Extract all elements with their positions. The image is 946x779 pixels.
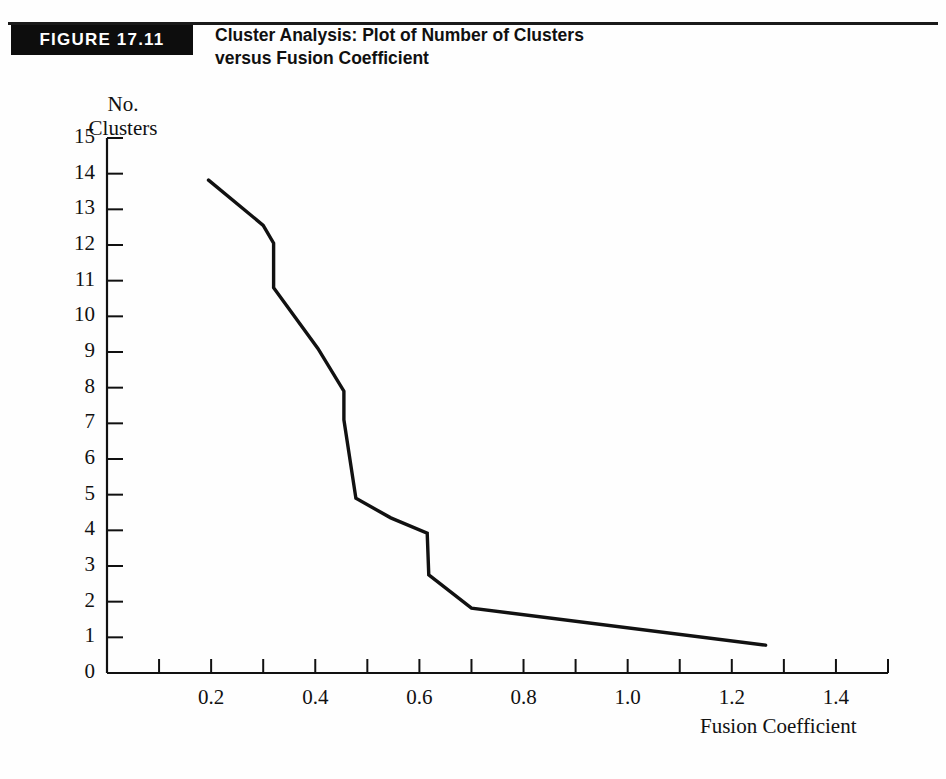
figure-page: FIGURE 17.11 Cluster Analysis: Plot of N…: [0, 0, 946, 779]
axes-layer: [107, 138, 888, 673]
data-series-layer: [209, 180, 766, 645]
data-line: [209, 180, 766, 645]
cluster-fusion-line-chart: [0, 0, 946, 779]
